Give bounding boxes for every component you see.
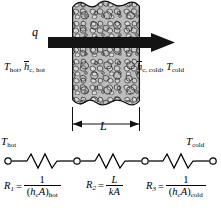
resistance-formula-3: R3 = 1 (hcA)cold	[146, 174, 206, 199]
r1-equals: =	[16, 181, 22, 192]
hot-coefficient-subscript: c, hot	[29, 66, 45, 74]
heat-flow-arrow	[48, 33, 175, 52]
cold-temperature-subscript: cold	[172, 66, 184, 74]
plane-wall	[72, 0, 140, 107]
r1-numerator: 1	[37, 174, 48, 185]
heat-flux-label: q	[32, 26, 38, 38]
r3-symbol: R3	[146, 180, 156, 193]
r3-denominator: (hcA)cold	[166, 185, 206, 199]
r2-fraction: L kA	[106, 174, 123, 197]
right-separator: ,	[161, 61, 164, 72]
thickness-label: L	[100, 120, 107, 132]
r1-symbol: R1	[4, 180, 14, 193]
r3-numerator: 1	[180, 174, 191, 185]
r1-denominator: (hcA)hot	[24, 185, 61, 199]
r1-fraction: 1 (hcA)hot	[24, 174, 61, 199]
figure-canvas: q Thot, hc, hot hc, cold, Tcold L	[0, 0, 221, 210]
network-hot-terminal-label: Thot	[1, 136, 16, 149]
cold-coefficient-symbol: h	[137, 62, 142, 73]
cold-side-label: hc, cold, Tcold	[137, 62, 184, 74]
resistance-formula-2: R2 = L kA	[86, 174, 123, 197]
r2-symbol: R2	[86, 179, 96, 192]
r2-equals: =	[98, 180, 104, 191]
network-cold-terminal-label: Tcold	[186, 136, 204, 149]
hot-coefficient-symbol: h	[24, 62, 29, 73]
r2-numerator: L	[108, 174, 120, 185]
hot-temperature-subscript: hot	[10, 66, 19, 74]
r3-fraction: 1 (hcA)cold	[166, 174, 206, 199]
hot-side-label: Thot, hc, hot	[4, 62, 45, 74]
resistance-formula-1: R1 = 1 (hcA)hot	[4, 174, 61, 199]
cold-coefficient-subscript: c, cold	[142, 66, 161, 74]
thermal-resistance-network	[0, 152, 221, 170]
left-separator: ,	[19, 61, 22, 72]
r3-equals: =	[158, 181, 164, 192]
r2-denominator: kA	[106, 185, 123, 197]
